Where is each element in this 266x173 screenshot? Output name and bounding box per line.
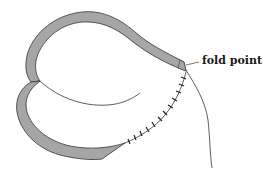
inner-curve — [40, 81, 140, 105]
stitch-marks — [128, 77, 186, 144]
lower-lobe-band — [17, 81, 125, 160]
leaf-fold-diagram — [0, 0, 266, 173]
hanging-line — [186, 70, 212, 168]
stitched-seam — [125, 72, 186, 143]
fold-point-leader — [186, 62, 199, 65]
fold-point-label: fold point — [202, 54, 262, 67]
upper-lobe-band — [26, 12, 186, 82]
